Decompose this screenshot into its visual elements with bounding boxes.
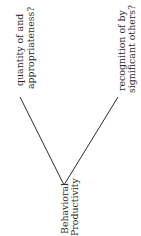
root-line-2: Productivity bbox=[70, 178, 80, 236]
connector-left bbox=[20, 97, 64, 185]
connector-right bbox=[64, 97, 118, 185]
branch-2-line-2: significant others? bbox=[127, 5, 137, 93]
branch-1-line-1: quantity of and bbox=[15, 14, 25, 86]
branch-1-line-2: appropriateness? bbox=[26, 7, 36, 89]
diagram-canvas: quantity of and appropriateness? recogni… bbox=[0, 0, 141, 236]
